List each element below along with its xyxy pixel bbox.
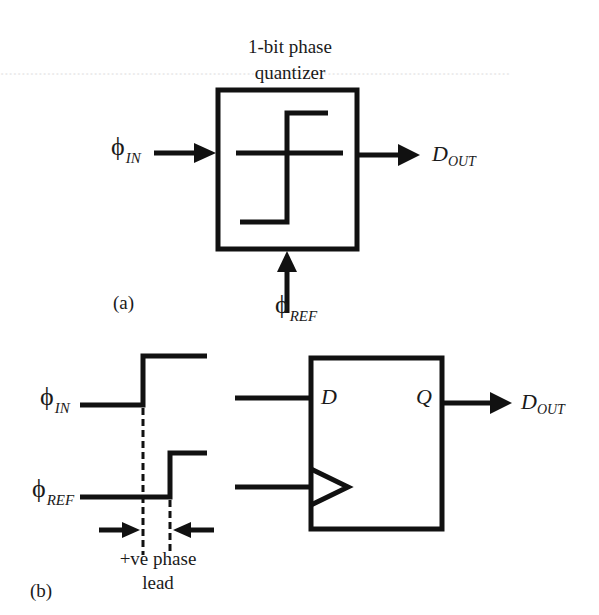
clock-triangle-icon [311, 469, 348, 505]
dashed-guides [143, 408, 170, 555]
quantizer-title-line2: quantizer [200, 62, 380, 84]
dout-label-a: DOUT [432, 141, 476, 167]
phase-lead-line1: +ve phase [98, 548, 218, 570]
quantizer-block [218, 90, 357, 249]
lead-arrows [99, 522, 214, 538]
dout-arrow-b [443, 392, 512, 414]
phi-in-label-a: ϕIN [111, 132, 141, 162]
quantizer-step-icon [240, 113, 328, 222]
quantizer-title-line1: 1-bit phase [200, 36, 380, 58]
caption-a: (a) [113, 292, 134, 314]
ff-d-label: D [321, 384, 337, 410]
phi-ref-label-a: ϕREF [275, 290, 317, 320]
phase-lead-line2: lead [98, 572, 218, 594]
phi-in-label-b: ϕIN [40, 382, 70, 412]
caption-b: (b) [30, 580, 52, 602]
d-flip-flop [235, 358, 442, 529]
phi-ref-label-b: ϕREF [32, 474, 74, 504]
dout-arrow-a [358, 144, 420, 166]
phi-in-arrow [154, 143, 216, 163]
ff-q-label: Q [416, 384, 432, 410]
dout-label-b: DOUT [521, 389, 565, 415]
phi-in-waveform [80, 356, 207, 405]
